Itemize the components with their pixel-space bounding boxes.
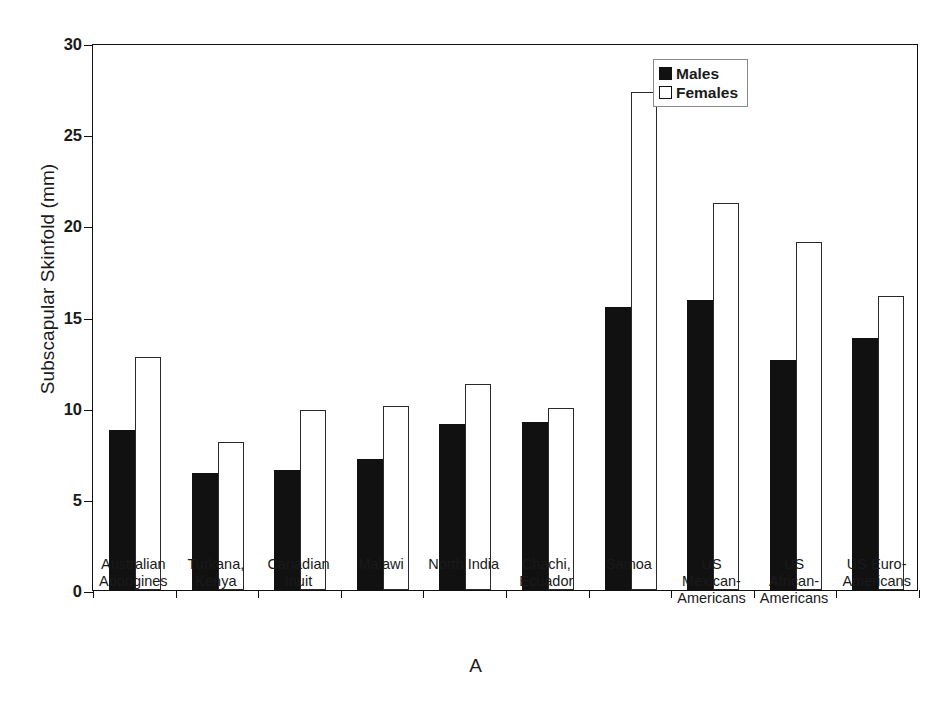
y-axis-title: Subscapular Skinfold (mm) xyxy=(37,109,59,449)
x-tick-mark xyxy=(919,590,920,598)
y-tick-mark xyxy=(84,319,93,320)
y-tick-mark xyxy=(84,592,93,593)
bar-females xyxy=(878,296,904,590)
figure-panel-a: Subscapular Skinfold (mm) 051015202530 A… xyxy=(0,0,951,705)
bar-females xyxy=(135,357,161,590)
y-tick-mark xyxy=(84,45,93,46)
bar-group xyxy=(93,45,176,590)
bar-group xyxy=(341,45,424,590)
bar-group xyxy=(258,45,341,590)
bar-males xyxy=(605,307,631,590)
x-tick-mark xyxy=(423,590,424,598)
bar-males xyxy=(852,338,878,590)
y-tick-label: 25 xyxy=(42,127,82,144)
x-tick-label-line: Inuit xyxy=(249,573,348,590)
x-tick-label-line: US Euro- xyxy=(827,556,926,573)
plot-area xyxy=(92,44,918,591)
y-tick-label: 10 xyxy=(42,401,82,418)
x-tick-mark xyxy=(93,590,94,598)
bar-females xyxy=(713,203,739,590)
legend-item-males: Males xyxy=(659,64,738,83)
bar-group xyxy=(176,45,259,590)
y-tick-label: 30 xyxy=(42,36,82,53)
y-tick-mark xyxy=(84,410,93,411)
bar-group xyxy=(506,45,589,590)
x-tick-mark xyxy=(589,590,590,598)
bar-group xyxy=(589,45,672,590)
bar-group xyxy=(836,45,919,590)
y-tick-label: 0 xyxy=(42,583,82,600)
x-tick-label-line: Americans xyxy=(745,590,844,607)
x-tick-mark xyxy=(341,590,342,598)
bar-males xyxy=(687,300,713,590)
legend-label-females: Females xyxy=(676,85,738,101)
y-tick-mark xyxy=(84,501,93,502)
panel-letter: A xyxy=(0,655,951,677)
y-tick-label: 20 xyxy=(42,218,82,235)
legend: Males Females xyxy=(653,59,748,107)
bar-females xyxy=(796,242,822,590)
legend-swatch-females-icon xyxy=(659,86,672,99)
x-tick-label-line: Ecuador xyxy=(497,573,596,590)
x-tick-label-line: Americans xyxy=(827,573,926,590)
x-tick-mark xyxy=(258,590,259,598)
x-tick-label: US Euro-Americans xyxy=(827,556,926,590)
bar-group xyxy=(423,45,506,590)
bar-group xyxy=(671,45,754,590)
y-tick-mark xyxy=(84,227,93,228)
legend-label-males: Males xyxy=(676,66,719,82)
legend-swatch-males-icon xyxy=(659,67,672,80)
y-tick-label: 5 xyxy=(42,492,82,509)
x-tick-mark xyxy=(176,590,177,598)
legend-item-females: Females xyxy=(659,83,738,102)
x-tick-mark xyxy=(506,590,507,598)
y-tick-label: 15 xyxy=(42,310,82,327)
y-tick-mark xyxy=(84,136,93,137)
bar-females xyxy=(631,92,657,590)
bar-group xyxy=(754,45,837,590)
